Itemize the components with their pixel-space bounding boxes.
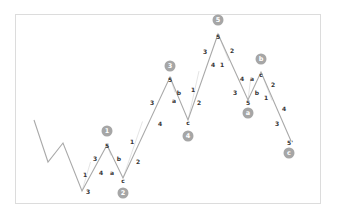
- sub-wave-label: 1: [83, 171, 87, 178]
- sub-wave-label: 1: [220, 61, 224, 68]
- wave-marker-label: a: [246, 109, 250, 117]
- wave-marker-1: 1: [102, 126, 113, 137]
- sub-wave-label: 4: [99, 169, 103, 176]
- sub-wave-label: a: [250, 75, 254, 82]
- sub-wave-label: 4: [240, 75, 244, 82]
- sub-wave-label: 3: [203, 48, 207, 55]
- sub-wave-label: 2: [271, 81, 275, 88]
- sub-wave-label: 5: [168, 76, 172, 83]
- wave-marker-label: 3: [168, 62, 173, 70]
- wave-marker-3: 3: [165, 61, 176, 72]
- sub-wave-label: 3: [150, 99, 154, 106]
- elliott-wave-chart: 13345abc12345abc1234152435abc21435' 1234…: [0, 0, 340, 218]
- sub-wave-label: 4: [211, 61, 215, 68]
- sub-wave-label: 3: [86, 188, 90, 195]
- sub-wave-line: [188, 71, 199, 120]
- sub-wave-line: [123, 122, 143, 179]
- sub-wave-label: b: [177, 89, 182, 96]
- wave-marker-label: 2: [121, 189, 126, 197]
- sub-wave-label: c: [186, 119, 190, 126]
- sub-wave-label: 2: [230, 47, 234, 54]
- sub-wave-label: 1: [264, 94, 268, 101]
- sub-wave-label: 4: [282, 105, 286, 112]
- wave-marker-4: 4: [183, 131, 194, 142]
- wave-marker-label: 4: [186, 132, 191, 140]
- sub-wave-label: a: [172, 97, 176, 104]
- wave-marker-label: 1: [105, 127, 110, 135]
- sub-wave-label: a: [110, 169, 114, 176]
- sub-wave-label: 1: [191, 86, 195, 93]
- wave-marker-label: c: [287, 149, 291, 157]
- wave-marker-5: 5: [213, 15, 224, 26]
- sub-wave-label: 1: [130, 138, 134, 145]
- sub-wave-label: 5: [216, 33, 220, 40]
- wave-marker-c: c: [284, 148, 295, 159]
- sub-wave-label: 5: [105, 142, 109, 149]
- sub-wave-label: b: [255, 89, 260, 96]
- sub-wave-label: b: [117, 155, 122, 162]
- wave-marker-2: 2: [118, 188, 129, 199]
- sub-wave-label: 2: [197, 99, 201, 106]
- wave-marker-a: a: [243, 108, 254, 119]
- sub-wave-label: 3: [275, 120, 279, 127]
- wave-marker-label: b: [259, 55, 264, 63]
- sub-wave-label: 5': [287, 139, 293, 146]
- sub-wave-label: c: [121, 177, 125, 184]
- wave-marker-label: 5: [216, 16, 221, 24]
- sub-wave-label: 2: [136, 158, 140, 165]
- sub-wave-label: c: [259, 71, 263, 78]
- sub-wave-label: 4: [158, 120, 162, 127]
- wave-marker-b: b: [256, 54, 267, 65]
- sub-wave-label: 5: [246, 99, 250, 106]
- wave-markers: 12345abc: [102, 15, 295, 199]
- sub-wave-label: 3: [233, 89, 237, 96]
- sub-wave-label: 3: [93, 155, 97, 162]
